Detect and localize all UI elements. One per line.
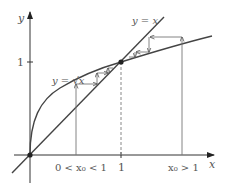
line-y-equals-x bbox=[12, 17, 164, 173]
right-x0-label: x₀ > 1 bbox=[168, 162, 199, 173]
fixed-point-origin bbox=[27, 152, 32, 157]
line-label: y = x bbox=[131, 15, 158, 26]
y-tick-label: 1 bbox=[17, 56, 24, 69]
x-tick-label: 1 bbox=[118, 161, 125, 174]
cobweb-right bbox=[129, 37, 182, 57]
fixed-point-one bbox=[118, 59, 123, 64]
y-axis-label: y bbox=[17, 12, 25, 25]
cobweb-diagram: y x 1 1 y = x y = √x 0 < x₀ < 1 x₀ > 1 bbox=[0, 0, 228, 185]
x-axis-label: x bbox=[209, 158, 216, 171]
sqrt-label: y = √x bbox=[51, 75, 85, 86]
left-x0-label: 0 < x₀ < 1 bbox=[55, 162, 107, 173]
